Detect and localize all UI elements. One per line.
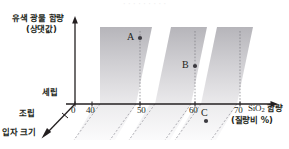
- x-tick-label-0: 0: [71, 106, 75, 115]
- y-axis-arrow: [72, 16, 78, 24]
- z-axis-label-fine: 세립: [42, 88, 58, 97]
- z-axis-label-coarse: 조립: [19, 109, 35, 118]
- x-tick-label-40: 40: [86, 106, 95, 115]
- shadow-plane-40-50: [74, 104, 136, 140]
- y-axis-label-line1: 유색 광물 함량: [12, 14, 64, 23]
- x-axis-title-line1: SiO2 함량: [248, 104, 283, 114]
- x-tick-label-60: 60: [189, 106, 198, 115]
- x-axis-title-formula-base: SiO: [248, 103, 261, 113]
- y-axis-label-line2: (상댓값): [26, 25, 57, 34]
- plane-body-60-70: [201, 27, 253, 104]
- z-axis-title: 입자 크기: [2, 128, 36, 137]
- rock-classification-diagram: · · · · · · · · ·: [0, 0, 289, 149]
- x-axis-title-line2: (질량비 %): [231, 116, 273, 125]
- point-marker-c: [204, 119, 208, 123]
- x-tick-label-50: 50: [137, 106, 146, 115]
- x-axis-title-unit-word: 함량: [265, 103, 283, 113]
- point-marker-b: [193, 64, 197, 68]
- point-marker-a: [138, 36, 142, 40]
- point-label-a: A: [127, 32, 134, 43]
- point-label-c: C: [201, 108, 207, 119]
- point-label-b: B: [182, 60, 188, 71]
- plane-shadows: [74, 104, 237, 140]
